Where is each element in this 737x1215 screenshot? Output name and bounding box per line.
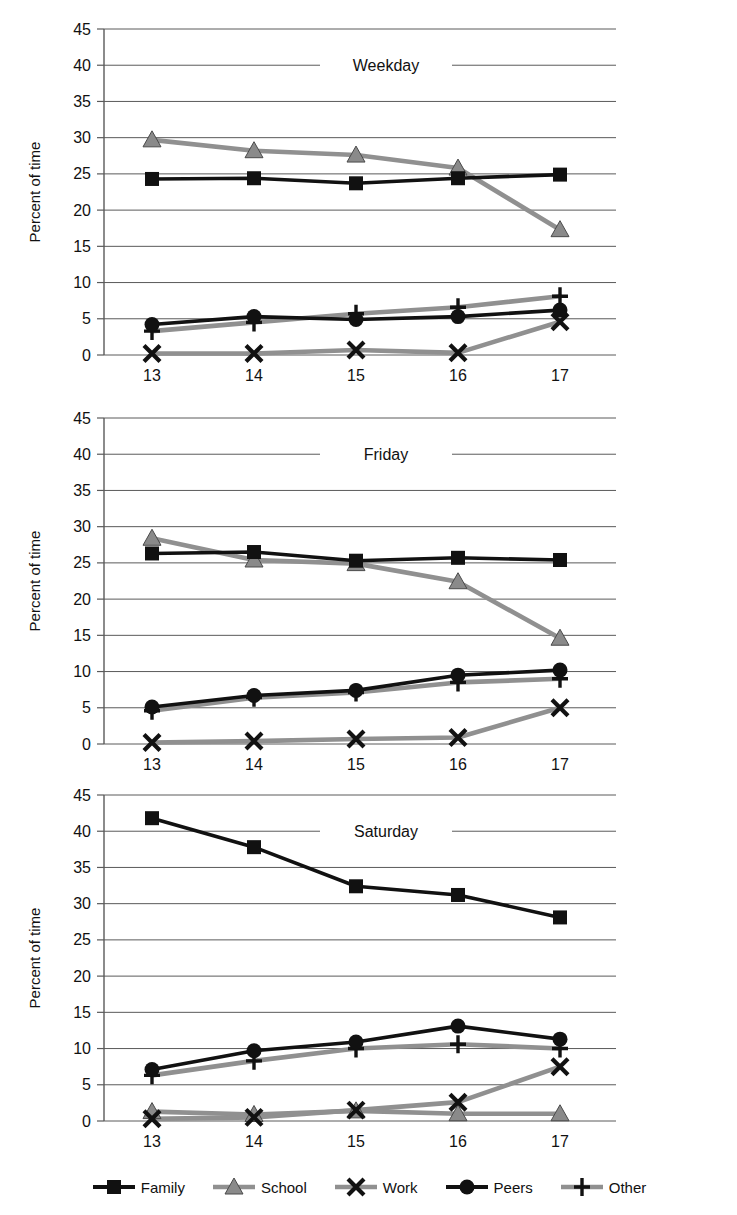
y-tick-label: 5 [82, 699, 91, 716]
y-tick-label: 30 [73, 895, 91, 912]
triangle-marker [211, 1176, 257, 1198]
legend-label: Work [383, 1179, 418, 1196]
x-tick-label: 13 [143, 367, 161, 384]
x-tick-labels: 1314151617 [143, 1133, 569, 1150]
chart-panel-friday: 051015202530354045Friday1314151617AgePer… [0, 389, 737, 778]
y-axis-title: Percent of time [26, 142, 43, 243]
y-tick-label: 25 [73, 554, 91, 571]
y-tick-label: 10 [73, 1040, 91, 1057]
y-tick-label: 0 [82, 736, 91, 753]
x-tick-label: 17 [551, 367, 569, 384]
y-tick-label: 45 [73, 787, 91, 804]
y-tick-label: 0 [82, 347, 91, 364]
legend-item-family[interactable]: Family [91, 1176, 185, 1198]
legend-item-work[interactable]: Work [333, 1176, 418, 1198]
y-tick-label: 20 [73, 591, 91, 608]
y-tick-label: 25 [73, 931, 91, 948]
legend-label: Family [141, 1179, 185, 1196]
plus-marker [559, 1176, 605, 1198]
chart-svg: 051015202530354045Weekday1314151617AgePe… [0, 0, 737, 389]
chart-legend: FamilySchoolWorkPeersOther [0, 1176, 737, 1198]
y-tick-label: 40 [73, 57, 91, 74]
legend-item-school[interactable]: School [211, 1176, 307, 1198]
y-axis-title: Percent of time [26, 908, 43, 1009]
chart-title: Weekday [353, 57, 419, 74]
legend-label: Peers [494, 1179, 533, 1196]
y-tick-label: 45 [73, 410, 91, 427]
x-tick-label: 13 [143, 1133, 161, 1150]
y-tick-label: 0 [82, 1113, 91, 1130]
figure-root: 051015202530354045Weekday1314151617AgePe… [0, 0, 737, 1215]
square-marker [91, 1176, 137, 1198]
y-tick-label: 45 [73, 21, 91, 38]
chart-title: Saturday [354, 823, 418, 840]
y-tick-label: 40 [73, 446, 91, 463]
x-tick-label: 17 [551, 1133, 569, 1150]
legend-item-peers[interactable]: Peers [444, 1176, 533, 1198]
y-tick-label: 30 [73, 518, 91, 535]
x-tick-label: 16 [449, 1133, 467, 1150]
y-tick-label: 20 [73, 968, 91, 985]
series-markers-school [143, 529, 569, 645]
chart-svg: 051015202530354045Friday1314151617AgePer… [0, 389, 737, 778]
y-tick-label: 15 [73, 1004, 91, 1021]
y-tick-label: 35 [73, 859, 91, 876]
legend-label: School [261, 1179, 307, 1196]
x-marker [333, 1176, 379, 1198]
x-tick-label: 15 [347, 367, 365, 384]
y-tick-label: 10 [73, 663, 91, 680]
x-tick-label: 14 [245, 367, 263, 384]
x-tick-label: 16 [449, 367, 467, 384]
y-tick-label: 15 [73, 627, 91, 644]
y-tick-label: 30 [73, 129, 91, 146]
x-tick-label: 15 [347, 1133, 365, 1150]
y-tick-label: 5 [82, 1076, 91, 1093]
x-tick-label: 14 [245, 1133, 263, 1150]
y-tick-label: 10 [73, 274, 91, 291]
chart-panel-saturday: 051015202530354045Saturday1314151617AgeP… [0, 766, 737, 1155]
y-axis-title: Percent of time [26, 531, 43, 632]
y-tick-label: 15 [73, 238, 91, 255]
legend-item-other[interactable]: Other [559, 1176, 647, 1198]
legend-label: Other [609, 1179, 647, 1196]
circle-marker [444, 1176, 490, 1198]
y-tick-label: 5 [82, 310, 91, 327]
y-tick-label: 35 [73, 93, 91, 110]
y-tick-label: 35 [73, 482, 91, 499]
series-markers-peers [145, 663, 568, 715]
chart-title: Friday [364, 446, 408, 463]
y-tick-label: 25 [73, 165, 91, 182]
y-tick-label: 40 [73, 823, 91, 840]
chart-panel-weekday: 051015202530354045Weekday1314151617AgePe… [0, 0, 737, 389]
x-tick-labels: 1314151617 [143, 367, 569, 384]
y-tick-label: 20 [73, 202, 91, 219]
chart-svg: 051015202530354045Saturday1314151617AgeP… [0, 766, 737, 1155]
